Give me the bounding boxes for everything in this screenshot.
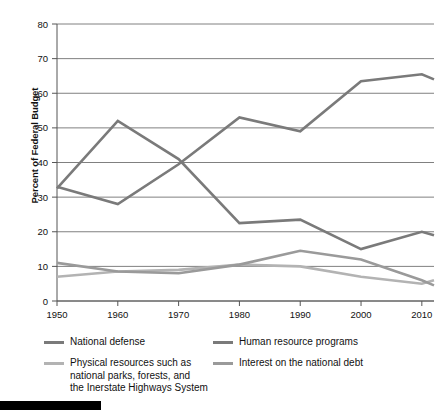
xtick-label-1950: 1950	[46, 309, 67, 320]
xtick-label-1990: 1990	[290, 309, 311, 320]
plot-area: Percent of Federal Budget 01020304050607…	[0, 0, 444, 330]
legend-label-human-resource-programs: Human resource programs	[239, 336, 358, 349]
line-chart-svg: 0102030405060708019501960197019801990200…	[0, 0, 444, 330]
xtick-label-1980: 1980	[229, 309, 250, 320]
ytick-label-60: 60	[37, 88, 48, 99]
xtick-label-1970: 1970	[168, 309, 189, 320]
ytick-label-70: 70	[37, 53, 48, 64]
ytick-label-10: 10	[37, 261, 48, 272]
ytick-label-0: 0	[43, 296, 48, 307]
ytick-label-30: 30	[37, 192, 48, 203]
ytick-label-20: 20	[37, 226, 48, 237]
legend-label-national-defense: National defense	[70, 336, 145, 349]
chart-legend: National defense Human resource programs…	[0, 330, 444, 400]
series-line-0	[57, 121, 434, 249]
bottom-rule-bar	[0, 401, 101, 410]
legend-label-physical-resources: Physical resources such as national park…	[70, 357, 208, 395]
legend-swatch-physical-resources	[44, 362, 64, 365]
legend-label-interest-national-debt: Interest on the national debt	[239, 357, 363, 370]
legend-item-physical-resources[interactable]: Physical resources such as national park…	[44, 357, 214, 395]
series-line-3	[57, 251, 434, 286]
ytick-label-40: 40	[37, 157, 48, 168]
series-line-2	[57, 265, 434, 284]
xtick-label-1960: 1960	[107, 309, 128, 320]
legend-item-national-defense[interactable]: National defense	[44, 336, 145, 349]
ytick-label-50: 50	[37, 122, 48, 133]
legend-swatch-interest-national-debt	[213, 362, 233, 365]
xtick-label-2010: 2010	[411, 309, 432, 320]
legend-swatch-national-defense	[44, 341, 64, 344]
legend-item-interest-national-debt[interactable]: Interest on the national debt	[213, 357, 363, 370]
legend-swatch-human-resource-programs	[213, 341, 233, 344]
legend-item-human-resource-programs[interactable]: Human resource programs	[213, 336, 358, 349]
chart-figure: Percent of Federal Budget 01020304050607…	[0, 0, 444, 417]
ytick-label-80: 80	[37, 19, 48, 30]
xtick-label-2000: 2000	[350, 309, 371, 320]
